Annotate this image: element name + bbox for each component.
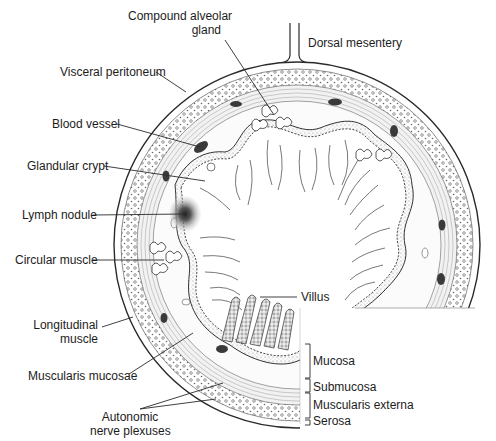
bracket-label-submucosa: Submucosa [313, 380, 376, 394]
bracket-label-mucosa: Mucosa [313, 354, 355, 368]
bracket-label-muscularis-externa: Muscularis externa [313, 398, 414, 412]
label-autonomic-nerve-plexuses: Autonomic nerve plexuses [90, 410, 170, 438]
label-line: gland [128, 23, 221, 37]
label-line: Autonomic [90, 410, 170, 424]
label-lymph-nodule: Lymph nodule [22, 208, 97, 222]
label-line: nerve plexuses [90, 424, 170, 438]
label-longitudinal-muscle: Longitudinal muscle [20, 318, 98, 346]
label-blood-vessel: Blood vessel [52, 117, 120, 131]
label-line: muscle [20, 332, 98, 346]
label-visceral-peritoneum: Visceral peritoneum [60, 65, 166, 79]
label-glandular-crypt: Glandular crypt [27, 159, 108, 173]
label-circular-muscle: Circular muscle [15, 253, 98, 267]
label-compound-alveolar-gland: Compound alveolar gland [128, 9, 221, 37]
bracket-label-serosa: Serosa [313, 414, 351, 428]
dorsal-mesentery-shape [280, 23, 309, 63]
label-dorsal-mesentery: Dorsal mesentery [308, 36, 402, 50]
label-muscularis-mucosae: Muscularis mucosae [28, 369, 137, 383]
label-line: Longitudinal [20, 318, 98, 332]
label-villus: Villus [301, 290, 329, 304]
label-line: Compound alveolar [128, 9, 221, 23]
layer-brackets [305, 344, 310, 425]
